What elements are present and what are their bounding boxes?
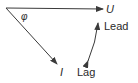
lag-label: Lag: [77, 67, 95, 78]
lead-lag-curved-arrow: [88, 23, 98, 61]
lead-label: Lead: [104, 21, 128, 32]
angle-phi-label: φ: [21, 12, 28, 22]
current-label: I: [60, 67, 63, 78]
current-phasor-arrow: [6, 8, 57, 64]
voltage-label: U: [106, 4, 114, 15]
voltage-phasor-arrow: [6, 8, 103, 9]
phasor-diagram: φ U Lead I Lag: [0, 0, 138, 83]
